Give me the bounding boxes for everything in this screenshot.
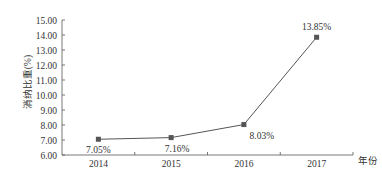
data-label: 8.03% <box>250 131 275 141</box>
data-point-marker <box>169 135 174 140</box>
data-label: 7.05% <box>86 145 111 155</box>
x-tick-label: 2017 <box>307 159 326 169</box>
y-tick-label: 8.00 <box>40 121 57 131</box>
y-tick-label: 13.00 <box>36 46 58 56</box>
y-tick-label: 6.00 <box>40 151 57 161</box>
data-label: 7.16% <box>165 144 190 154</box>
y-tick-label: 10.00 <box>36 91 58 101</box>
data-point-marker <box>241 122 246 127</box>
y-tick-label: 9.00 <box>40 106 57 116</box>
x-tick-label: 2016 <box>234 159 253 169</box>
x-tick-label: 2015 <box>162 159 181 169</box>
y-axis-label: 消纳比重(%) <box>22 55 34 109</box>
data-point-marker <box>96 137 101 142</box>
y-tick-label: 7.00 <box>40 136 57 146</box>
data-series: 7.05%7.16%8.03%13.85% <box>86 22 331 155</box>
data-point-marker <box>314 35 319 40</box>
y-tick-label: 12.00 <box>36 61 58 71</box>
y-tick-label: 15.00 <box>36 16 58 26</box>
x-axis-label: 年份 <box>358 155 378 166</box>
x-tick-label: 2014 <box>89 159 108 169</box>
y-tick-label: 14.00 <box>36 31 58 41</box>
y-axis: 6.007.008.009.0010.0011.0012.0013.0014.0… <box>36 16 65 161</box>
line-chart: 6.007.008.009.0010.0011.0012.0013.0014.0… <box>0 0 382 179</box>
data-label: 13.85% <box>302 22 331 32</box>
y-tick-label: 11.00 <box>36 76 57 86</box>
